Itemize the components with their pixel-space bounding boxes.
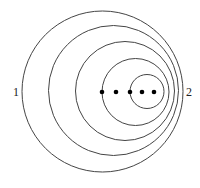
label-2: 2 <box>186 85 192 99</box>
circle-5 <box>130 75 164 109</box>
center-dot-1 <box>100 90 105 95</box>
center-dot-3 <box>128 90 133 95</box>
dots-group <box>100 90 157 95</box>
circle-3 <box>76 42 175 141</box>
label-1: 1 <box>13 85 19 99</box>
circle-2 <box>49 26 179 156</box>
circle-4 <box>102 59 169 126</box>
center-dot-5 <box>152 90 157 95</box>
center-dot-4 <box>140 90 145 95</box>
nested-circles-diagram: 1 2 <box>0 0 200 188</box>
center-dot-2 <box>114 90 119 95</box>
